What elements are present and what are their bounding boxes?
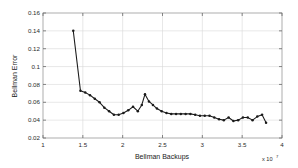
data-point-marker bbox=[122, 112, 125, 115]
data-point-marker bbox=[232, 120, 235, 123]
data-point-marker bbox=[160, 110, 163, 113]
x-tick-label: 3.5 bbox=[238, 141, 247, 148]
data-point-marker bbox=[144, 93, 147, 96]
data-point-marker bbox=[137, 110, 140, 113]
data-point-marker bbox=[218, 118, 221, 121]
data-point-marker bbox=[180, 113, 183, 116]
y-axis-label: Bellman Error bbox=[11, 54, 18, 97]
y-tick-label: 0.1 bbox=[31, 63, 40, 70]
y-tick-label: 0.04 bbox=[28, 116, 41, 123]
data-point-marker bbox=[117, 114, 120, 117]
y-tick-label: 0.12 bbox=[28, 45, 41, 52]
data-point-marker bbox=[165, 112, 168, 115]
y-tick-label: 0.16 bbox=[28, 9, 41, 16]
data-point-marker bbox=[175, 113, 178, 116]
data-point-marker bbox=[265, 122, 268, 125]
data-point-marker bbox=[127, 109, 130, 112]
x-tick-label: 4 bbox=[280, 141, 284, 148]
data-point-marker bbox=[113, 114, 116, 117]
data-point-marker bbox=[132, 106, 135, 109]
data-point-marker bbox=[203, 114, 206, 117]
x-tick-label: 2 bbox=[121, 141, 125, 148]
bellman-error-line-chart: 11.522.533.54 0.020.040.060.080.10.120.1… bbox=[0, 0, 298, 168]
y-tick-label: 0.08 bbox=[28, 81, 41, 88]
x-axis-multiplier: x 10 bbox=[262, 156, 273, 162]
x-tick-label: 1.5 bbox=[79, 141, 88, 148]
data-point-marker bbox=[148, 100, 151, 103]
data-point-marker bbox=[98, 101, 101, 104]
data-point-marker bbox=[237, 119, 240, 122]
y-tick-label: 0.02 bbox=[28, 134, 41, 141]
data-point-marker bbox=[184, 113, 187, 116]
data-point-marker bbox=[84, 91, 87, 94]
data-point-marker bbox=[152, 104, 155, 107]
x-tick-label: 2.5 bbox=[158, 141, 167, 148]
data-point-marker bbox=[189, 113, 192, 116]
y-tick-label: 0.06 bbox=[28, 98, 41, 105]
data-point-marker bbox=[141, 104, 144, 107]
data-point-marker bbox=[89, 94, 92, 97]
x-axis-label: Bellman Backups bbox=[135, 153, 190, 161]
data-point-marker bbox=[199, 114, 202, 117]
data-point-marker bbox=[213, 116, 216, 119]
x-tick-label: 3 bbox=[201, 141, 205, 148]
data-point-marker bbox=[170, 113, 173, 116]
data-point-marker bbox=[246, 116, 249, 119]
data-point-marker bbox=[194, 114, 197, 117]
x-tick-label: 1 bbox=[41, 141, 45, 148]
data-point-marker bbox=[227, 116, 230, 119]
data-point-marker bbox=[242, 116, 245, 119]
data-point-marker bbox=[79, 89, 82, 92]
data-point-marker bbox=[251, 119, 254, 122]
data-point-marker bbox=[256, 115, 259, 118]
data-point-marker bbox=[208, 114, 211, 117]
data-point-marker bbox=[108, 110, 111, 113]
data-point-marker bbox=[72, 30, 75, 33]
data-point-marker bbox=[156, 107, 159, 110]
data-point-marker bbox=[223, 119, 226, 122]
data-point-marker bbox=[103, 106, 106, 109]
data-point-marker bbox=[261, 114, 264, 117]
data-point-marker bbox=[94, 97, 97, 100]
chart-figure: 11.522.533.54 0.020.040.060.080.10.120.1… bbox=[0, 0, 298, 168]
y-tick-label: 0.14 bbox=[28, 27, 41, 34]
